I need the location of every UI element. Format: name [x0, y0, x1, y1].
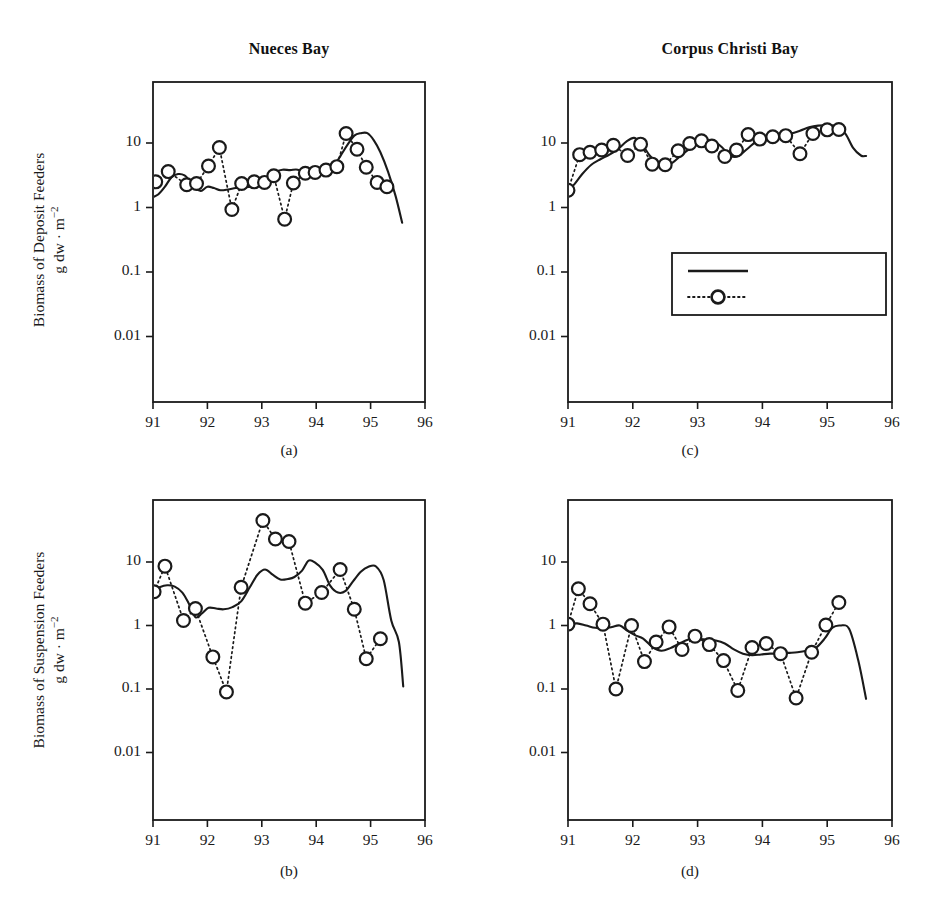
observation-marker	[572, 582, 585, 595]
observation-marker	[779, 129, 792, 142]
x-tick-label: 94	[737, 831, 787, 849]
x-tick-label: 95	[346, 413, 396, 431]
observation-marker	[774, 647, 787, 660]
x-tick-label: 92	[608, 413, 658, 431]
y-tick-label: 0.1	[87, 261, 141, 279]
observation-line	[154, 521, 380, 692]
observation-marker	[832, 596, 845, 609]
observation-marker	[790, 692, 803, 705]
observation-marker	[278, 213, 291, 226]
observation-marker	[807, 127, 820, 140]
observation-marker	[832, 123, 845, 136]
observation-marker	[672, 144, 685, 157]
x-tick-label: 96	[400, 413, 450, 431]
legend-box	[672, 253, 886, 315]
x-tick-label: 94	[291, 413, 341, 431]
observation-marker	[256, 514, 269, 527]
observation-marker	[351, 143, 364, 156]
observation-marker	[225, 203, 238, 216]
y-tick-label: 1	[502, 615, 556, 633]
observation-marker	[584, 597, 597, 610]
panel-b	[146, 500, 425, 827]
x-tick-label: 91	[128, 831, 178, 849]
y-tick-label: 0.1	[502, 261, 556, 279]
y-tick-label: 0.1	[502, 678, 556, 696]
y-tick-label: 0.01	[502, 326, 556, 344]
observation-marker	[638, 655, 651, 668]
y-tick-label: 0.01	[87, 326, 141, 344]
x-tick-label: 92	[182, 831, 232, 849]
x-tick-label: 93	[237, 831, 287, 849]
x-tick-label: 96	[867, 413, 917, 431]
x-tick-label: 96	[867, 831, 917, 849]
observation-marker	[189, 602, 202, 615]
simulation-line	[153, 560, 403, 686]
legend-swatch-observation-marker	[712, 291, 725, 304]
plot-frame	[153, 82, 425, 402]
x-tick-label: 92	[608, 831, 658, 849]
observation-marker	[340, 127, 353, 140]
observation-marker	[760, 637, 773, 650]
observation-marker	[703, 638, 716, 651]
observation-marker	[213, 141, 226, 154]
x-tick-label: 91	[543, 831, 593, 849]
observation-marker	[162, 165, 175, 178]
observation-marker	[148, 585, 161, 598]
observation-marker	[794, 147, 807, 160]
observation-marker	[753, 133, 766, 146]
observation-marker	[283, 535, 296, 548]
y-tick-label: 1	[502, 197, 556, 215]
x-tick-label: 95	[802, 413, 852, 431]
observation-marker	[330, 160, 343, 173]
observation-marker	[621, 149, 634, 162]
observation-marker	[360, 652, 373, 665]
y-tick-label: 0.1	[87, 678, 141, 696]
x-tick-label: 91	[128, 413, 178, 431]
x-tick-label: 95	[346, 831, 396, 849]
simulation-line	[568, 125, 866, 190]
y-tick-label: 10	[87, 132, 141, 150]
observation-marker	[731, 684, 744, 697]
panel-a	[146, 82, 425, 409]
x-tick-label: 96	[400, 831, 450, 849]
x-tick-label: 93	[673, 831, 723, 849]
observation-marker	[299, 597, 312, 610]
observation-marker	[610, 683, 623, 696]
observation-marker	[334, 563, 347, 576]
observation-marker	[235, 581, 248, 594]
observation-marker	[374, 632, 387, 645]
observation-marker	[663, 621, 676, 634]
legend	[672, 253, 886, 315]
observation-marker	[381, 180, 394, 193]
observation-marker	[650, 636, 663, 649]
observation-marker	[676, 643, 689, 656]
x-tick-label: 95	[802, 831, 852, 849]
observation-marker	[267, 169, 280, 182]
observation-marker	[689, 630, 702, 643]
observation-marker	[202, 160, 215, 173]
observation-marker	[820, 619, 833, 632]
y-tick-label: 10	[502, 551, 556, 569]
y-tick-label: 1	[87, 615, 141, 633]
x-tick-label: 93	[237, 413, 287, 431]
x-tick-label: 94	[291, 831, 341, 849]
observation-marker	[190, 177, 203, 190]
y-tick-label: 0.01	[502, 742, 556, 760]
observation-marker	[705, 140, 718, 153]
panel-c	[561, 82, 892, 409]
observation-marker	[206, 651, 219, 664]
plot-svg	[0, 0, 950, 924]
observation-marker	[348, 603, 361, 616]
observation-marker	[766, 130, 779, 143]
observation-marker	[625, 619, 638, 632]
observation-marker	[634, 138, 647, 151]
y-tick-label: 0.01	[87, 742, 141, 760]
x-tick-label: 93	[673, 413, 723, 431]
figure-canvas: Nueces Bay Corpus Christi Bay Biomass of…	[0, 0, 950, 924]
panel-d	[561, 500, 892, 827]
observation-marker	[607, 139, 620, 152]
y-tick-label: 10	[502, 132, 556, 150]
observation-marker	[597, 618, 610, 631]
x-tick-label: 91	[543, 413, 593, 431]
observation-marker	[315, 586, 328, 599]
